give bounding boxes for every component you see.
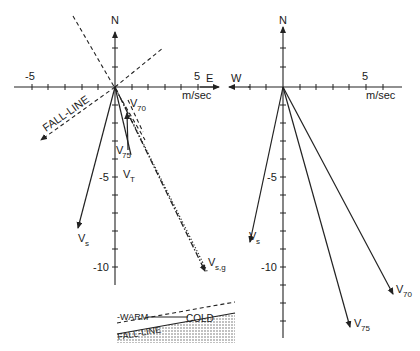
front-line-shallow <box>115 48 163 87</box>
label-v70-right: V 70 <box>396 283 412 299</box>
label-vsg: V s,g <box>208 256 226 272</box>
fall-line-label: FALL-LINE <box>40 93 91 134</box>
svg-text:s,g: s,g <box>215 263 226 272</box>
label-vs-right: V s <box>249 230 260 246</box>
vector-v75-right <box>283 87 350 327</box>
y-tick-label-neg5-right: -5 <box>267 171 277 183</box>
right-panel: N W 5 m/sec -5 -10 V s V 75 V 70 <box>229 14 412 338</box>
label-v75-right: V 75 <box>354 317 370 333</box>
svg-text:75: 75 <box>122 151 131 160</box>
label-vs: V s <box>78 232 89 248</box>
label-v70: V 70 <box>130 97 146 113</box>
vector-vs-right <box>250 87 283 242</box>
x-tick-label-5: 5 <box>194 70 200 82</box>
svg-text:70: 70 <box>137 104 146 113</box>
svg-text:s: s <box>85 239 89 248</box>
vector-v70-right <box>283 87 393 294</box>
units-label: m/sec <box>182 89 212 101</box>
wind-vector-diagram: N E -5 5 m/sec -5 -10 FALL-LINE V s V 70… <box>0 0 420 351</box>
west-label: W <box>231 72 242 84</box>
y-tick-label-neg10: -10 <box>93 261 109 273</box>
x-tick-label-5-right: 5 <box>362 70 368 82</box>
y-tick-label-neg5: -5 <box>99 171 109 183</box>
east-label: E <box>206 72 213 84</box>
units-label-right: m/sec <box>366 89 396 101</box>
vector-v70 <box>127 113 128 150</box>
vector-vs <box>78 87 115 228</box>
north-label-right: N <box>279 14 287 26</box>
svg-text:T: T <box>130 175 135 184</box>
cold-label: COLD <box>186 313 214 324</box>
y-tick-label-neg10-right: -10 <box>261 261 277 273</box>
svg-text:75: 75 <box>361 324 370 333</box>
inset-cross-section: -WARM COLD FALL-LINE <box>117 302 235 343</box>
north-label: N <box>111 14 119 26</box>
warm-label: -WARM <box>117 312 148 322</box>
x-tick-label-neg5: -5 <box>25 70 35 82</box>
label-vt: V T <box>123 168 135 184</box>
front-line-steep <box>73 16 145 140</box>
svg-text:70: 70 <box>403 290 412 299</box>
svg-text:s: s <box>256 237 260 246</box>
fall-line-arrow <box>41 87 115 140</box>
left-panel: N E -5 5 m/sec -5 -10 FALL-LINE V s V 70… <box>14 14 226 285</box>
figure: N E -5 5 m/sec -5 -10 FALL-LINE V s V 70… <box>0 0 420 351</box>
